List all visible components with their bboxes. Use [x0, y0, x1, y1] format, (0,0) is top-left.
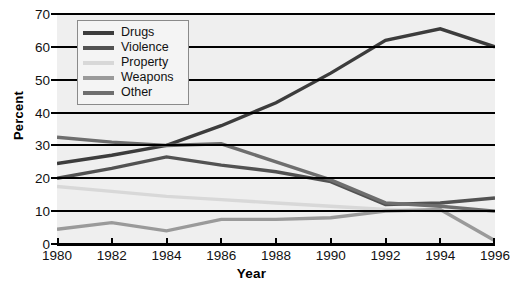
y-axis-tick	[51, 112, 57, 114]
gridline	[57, 144, 495, 146]
y-axis-tick	[51, 177, 57, 179]
x-axis-tick-label: 1980	[34, 248, 80, 263]
x-axis-tick	[385, 238, 387, 244]
y-axis-tick-label: 70	[20, 7, 50, 22]
y-axis-tick	[51, 144, 57, 146]
x-axis-tick	[275, 238, 277, 244]
x-axis-tick	[57, 238, 59, 244]
x-axis-tick	[439, 238, 441, 244]
x-axis-tick-label: 1992	[363, 248, 409, 263]
legend-item-other[interactable]: Other	[83, 85, 182, 100]
legend-item-violence[interactable]: Violence	[83, 40, 182, 55]
gridline	[57, 112, 495, 114]
legend-item-label: Weapons	[121, 70, 174, 85]
x-axis-tick-labels: 198019821984198619881990199219941996	[57, 248, 495, 268]
y-axis-tick-label: 40	[20, 105, 50, 120]
x-axis-tick-label: 1994	[417, 248, 463, 263]
series-line	[57, 137, 495, 211]
x-axis-tick-label: 1984	[144, 248, 190, 263]
chart-legend: DrugsViolencePropertyWeaponsOther	[77, 20, 189, 105]
legend-swatch-icon	[83, 91, 114, 95]
legend-swatch-icon	[83, 61, 114, 65]
y-axis-tick-label: 30	[20, 138, 50, 153]
legend-item-weapons[interactable]: Weapons	[83, 70, 182, 85]
legend-swatch-icon	[83, 31, 114, 35]
y-axis-tick	[51, 46, 57, 48]
series-line	[57, 187, 495, 212]
legend-item-label: Drugs	[121, 25, 154, 40]
y-axis-tick	[51, 210, 57, 212]
x-axis-tick-label: 1988	[253, 248, 299, 263]
y-axis-tick-label: 50	[20, 72, 50, 87]
legend-item-label: Other	[121, 85, 152, 100]
y-axis-tick-label: 20	[20, 171, 50, 186]
series-line	[57, 157, 495, 205]
legend-item-property[interactable]: Property	[83, 55, 182, 70]
gridline	[57, 13, 495, 15]
x-axis-tick	[111, 238, 113, 244]
x-axis-tick	[493, 238, 495, 244]
y-axis-tick-label: 10	[20, 204, 50, 219]
legend-swatch-icon	[83, 46, 114, 50]
legend-item-label: Property	[121, 55, 168, 70]
x-axis-tick-label: 1996	[472, 248, 514, 263]
x-axis-tick-label: 1982	[89, 248, 135, 263]
x-axis-tick-label: 1990	[308, 248, 354, 263]
y-axis-tick-label: 60	[20, 39, 50, 54]
y-axis-tick-labels: 010203040506070	[18, 0, 50, 288]
legend-item-label: Violence	[121, 40, 169, 55]
gridline	[57, 177, 495, 179]
legend-swatch-icon	[83, 76, 114, 80]
legend-item-drugs[interactable]: Drugs	[83, 25, 182, 40]
y-axis-tick	[51, 13, 57, 15]
x-axis-tick	[166, 238, 168, 244]
series-line	[57, 210, 495, 241]
x-axis-tick	[330, 238, 332, 244]
x-axis-title: Year	[0, 266, 503, 281]
x-axis-tick	[220, 238, 222, 244]
x-axis-tick-label: 1986	[198, 248, 244, 263]
y-axis-tick	[51, 79, 57, 81]
gridline	[57, 210, 495, 212]
